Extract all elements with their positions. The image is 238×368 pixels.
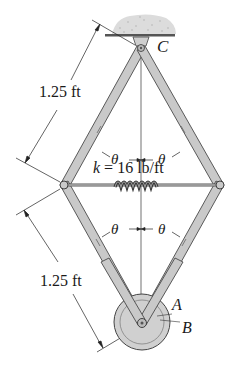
label-a: A — [172, 297, 182, 313]
spring-constant: k = 16 lb/ft — [93, 160, 164, 176]
joint-left — [60, 181, 68, 189]
wheel-b — [101, 258, 183, 350]
angle-lower-left: θ — [111, 222, 118, 237]
joint-right — [216, 181, 224, 189]
mechanism-diagram — [0, 0, 238, 368]
dimension-upper: 1.25 ft — [39, 84, 81, 100]
dimension-lower: 1.25 ft — [40, 273, 82, 289]
label-c: C — [157, 38, 168, 55]
angle-lower-right: θ — [158, 222, 165, 237]
spring-assembly — [60, 181, 224, 189]
label-b: B — [182, 320, 192, 336]
